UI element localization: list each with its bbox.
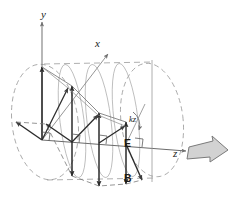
electric-field-label: E (124, 137, 131, 149)
cylinder-top-ruling (44, 62, 153, 64)
block-arrow-shape (187, 136, 228, 162)
coordinate-axes (42, 22, 186, 182)
b-vector-4 (72, 115, 98, 142)
magnetic-field-label: B (124, 172, 132, 184)
y-axis-label: y (40, 8, 46, 20)
cylinder-bottom-ruling (47, 178, 156, 180)
x-axis-label: x (94, 37, 100, 49)
propagation-direction-arrow (187, 136, 228, 162)
emwave-diagram: y x z E B kz (0, 0, 232, 216)
right-angle-marker-4 (135, 138, 143, 147)
x-axis-line (42, 54, 108, 140)
b-vector-1 (16, 122, 42, 140)
cylinder-outline (5, 60, 190, 184)
phase-label: kz (129, 114, 137, 124)
emwave-figure-canvas: y x z E B kz (0, 0, 232, 216)
z-axis-label: z (172, 147, 178, 159)
